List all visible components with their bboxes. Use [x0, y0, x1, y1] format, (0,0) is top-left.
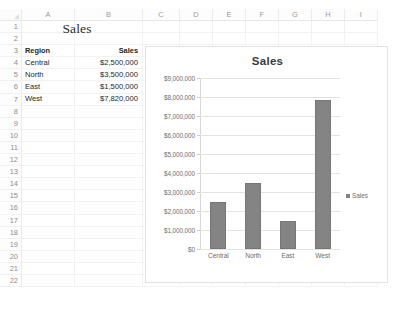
cell-B10[interactable] — [75, 130, 143, 142]
column-header-E[interactable]: E — [213, 9, 246, 21]
cell-B9[interactable] — [75, 118, 143, 130]
x-axis-category-labels: CentralNorthEastWest — [201, 252, 340, 259]
cell-A4-region[interactable]: North — [25, 69, 44, 81]
cell-B4-sales[interactable]: $3,500,000 — [78, 69, 138, 81]
cell-D2[interactable] — [180, 33, 213, 45]
cell-A3-region[interactable]: Central — [25, 57, 49, 69]
row-header-6[interactable]: 6 — [0, 81, 22, 93]
row-header-gutter: 12345678910111213141516171819202122 — [0, 21, 22, 287]
cell-B5-sales[interactable]: $1,500,000 — [78, 81, 138, 93]
cell-B20[interactable] — [75, 251, 143, 263]
embedded-chart[interactable]: Sales $9,000,000$8,000,000$7,000,000$6,0… — [145, 46, 388, 283]
cell-A1-title[interactable]: Sales — [22, 22, 132, 36]
cell-B17[interactable] — [75, 215, 143, 227]
column-header-C[interactable]: C — [143, 9, 180, 21]
row-header-13[interactable]: 13 — [0, 166, 22, 178]
row-header-5[interactable]: 5 — [0, 69, 22, 81]
column-header-I[interactable]: I — [345, 9, 378, 21]
row-header-22[interactable]: 22 — [0, 275, 22, 287]
cell-A17[interactable] — [22, 215, 75, 227]
bar-west[interactable] — [315, 100, 331, 249]
cell-H2[interactable] — [312, 33, 345, 45]
cell-A9[interactable] — [22, 118, 75, 130]
cell-E2[interactable] — [213, 33, 246, 45]
cell-C2[interactable] — [143, 33, 180, 45]
cell-B18[interactable] — [75, 227, 143, 239]
cell-B6-sales[interactable]: $7,820,000 — [78, 93, 138, 105]
cell-B13[interactable] — [75, 166, 143, 178]
row-header-2[interactable]: 2 — [0, 33, 22, 45]
row-header-4[interactable]: 4 — [0, 57, 22, 69]
row-header-3[interactable]: 3 — [0, 45, 22, 57]
chart-legend[interactable]: Sales — [346, 192, 368, 199]
y-axis-tick-label: $2,000,000 — [164, 208, 195, 215]
cell-A10[interactable] — [22, 130, 75, 142]
column-header-A[interactable]: A — [22, 9, 75, 21]
cell-A20[interactable] — [22, 251, 75, 263]
cell-A16[interactable] — [22, 202, 75, 214]
cell-B2-sales-header[interactable]: Sales — [78, 45, 138, 57]
cell-D1[interactable] — [180, 21, 213, 33]
row-header-16[interactable]: 16 — [0, 202, 22, 214]
cell-A12[interactable] — [22, 154, 75, 166]
cell-A19[interactable] — [22, 239, 75, 251]
cell-B22[interactable] — [75, 275, 143, 287]
row-header-1[interactable]: 1 — [0, 21, 22, 33]
cell-I1[interactable] — [345, 21, 378, 33]
cell-F1[interactable] — [246, 21, 279, 33]
y-axis-tick — [197, 249, 200, 250]
cell-F2[interactable] — [246, 33, 279, 45]
cell-A5-region[interactable]: East — [25, 81, 40, 93]
cell-A11[interactable] — [22, 142, 75, 154]
cell-B19[interactable] — [75, 239, 143, 251]
cell-A22[interactable] — [22, 275, 75, 287]
cell-B14[interactable] — [75, 178, 143, 190]
row-header-18[interactable]: 18 — [0, 227, 22, 239]
column-header-D[interactable]: D — [180, 9, 213, 21]
column-header-B[interactable]: B — [75, 9, 143, 21]
cell-A15[interactable] — [22, 190, 75, 202]
column-header-G[interactable]: G — [279, 9, 312, 21]
cell-H1[interactable] — [312, 21, 345, 33]
row-header-21[interactable]: 21 — [0, 263, 22, 275]
cell-C1[interactable] — [143, 21, 180, 33]
cell-E1[interactable] — [213, 21, 246, 33]
bar-central[interactable] — [210, 202, 226, 250]
row-header-7[interactable]: 7 — [0, 94, 22, 106]
cell-A14[interactable] — [22, 178, 75, 190]
cell-A18[interactable] — [22, 227, 75, 239]
column-header-F[interactable]: F — [246, 9, 279, 21]
cell-A6-region[interactable]: West — [25, 93, 42, 105]
row-header-17[interactable]: 17 — [0, 215, 22, 227]
row-header-14[interactable]: 14 — [0, 178, 22, 190]
row-header-9[interactable]: 9 — [0, 118, 22, 130]
cell-G1[interactable] — [279, 21, 312, 33]
row-header-12[interactable]: 12 — [0, 154, 22, 166]
cell-I2[interactable] — [345, 33, 378, 45]
cell-A8[interactable] — [22, 106, 75, 118]
cell-B3-sales[interactable]: $2,500,000 — [78, 57, 138, 69]
spreadsheet-canvas: ABCDEFGHI 123456789101112131415161718192… — [0, 0, 406, 312]
cell-A21[interactable] — [22, 263, 75, 275]
row-header-19[interactable]: 19 — [0, 239, 22, 251]
cell-G2[interactable] — [279, 33, 312, 45]
bar-north[interactable] — [245, 183, 261, 250]
y-axis-tick — [197, 230, 200, 231]
row-header-15[interactable]: 15 — [0, 190, 22, 202]
cell-B15[interactable] — [75, 190, 143, 202]
bar-east[interactable] — [280, 221, 296, 250]
cell-B21[interactable] — [75, 263, 143, 275]
cell-A13[interactable] — [22, 166, 75, 178]
column-header-H[interactable]: H — [312, 9, 345, 21]
row-header-11[interactable]: 11 — [0, 142, 22, 154]
y-axis-tick-label: $8,000,000 — [164, 94, 195, 101]
row-header-10[interactable]: 10 — [0, 130, 22, 142]
cell-A2-region-header[interactable]: Region — [25, 45, 50, 57]
cell-B8[interactable] — [75, 106, 143, 118]
cell-B12[interactable] — [75, 154, 143, 166]
row-header-8[interactable]: 8 — [0, 106, 22, 118]
cell-B16[interactable] — [75, 202, 143, 214]
row-header-20[interactable]: 20 — [0, 251, 22, 263]
select-all-corner[interactable] — [0, 9, 22, 21]
cell-B11[interactable] — [75, 142, 143, 154]
